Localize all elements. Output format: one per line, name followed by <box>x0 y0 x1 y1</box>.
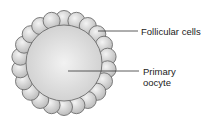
follicular-cells-label: Follicular cells <box>141 26 201 37</box>
primary-oocyte-label: Primary oocyte <box>143 66 176 88</box>
follicle-diagram <box>0 0 218 122</box>
oocyte-label-line1: Primary <box>143 66 176 77</box>
primary-oocyte <box>26 25 102 101</box>
oocyte-label-line2: oocyte <box>143 77 176 88</box>
